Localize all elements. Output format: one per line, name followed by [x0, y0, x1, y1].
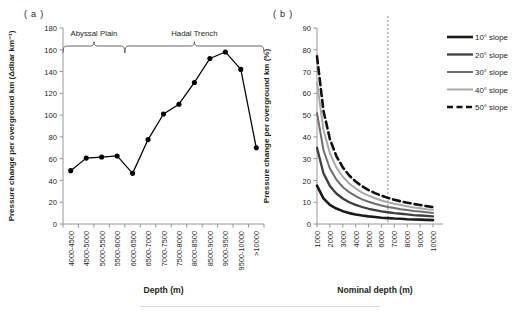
data-point-marker — [161, 111, 166, 116]
y-tick-label-b: 50 — [303, 111, 311, 120]
data-point-marker — [84, 156, 89, 161]
y-tick-label-a: 120 — [44, 89, 57, 98]
x-tick-label-a: 5000-5500 — [98, 231, 107, 266]
x-tick-label-b: 6000 — [377, 231, 386, 247]
data-point-marker — [115, 153, 120, 158]
data-point-marker — [99, 154, 104, 159]
data-point-marker — [68, 168, 73, 173]
x-axis-label-a: Depth (m) — [143, 285, 183, 295]
data-point-marker — [223, 49, 228, 54]
x-tick-label-a: 6500-7000 — [144, 231, 153, 266]
y-axis-label-a: Pressure change per overground km (Δdbar… — [7, 30, 16, 221]
data-point-marker — [207, 56, 212, 61]
x-tick-label-b: 10000 — [429, 231, 438, 252]
y-tick-label-a: 140 — [44, 68, 57, 77]
y-tick-label-a: 180 — [44, 24, 57, 33]
x-tick-label-a: 9000-9500 — [221, 231, 230, 266]
y-tick-label-b: 30 — [303, 155, 311, 164]
x-tick-label-a: 7000-7500 — [160, 231, 169, 266]
data-point-marker — [176, 102, 181, 107]
y-tick-label-b: 10 — [303, 198, 311, 207]
x-tick-label-b: 4000 — [352, 231, 361, 247]
x-tick-label-b: 3000 — [339, 231, 348, 247]
data-point-marker — [238, 67, 243, 72]
data-point-marker — [130, 171, 135, 176]
footer-divider — [140, 306, 380, 307]
y-tick-label-b: 80 — [303, 46, 311, 55]
legend-label: 10° slope — [475, 33, 509, 42]
y-tick-label-b: 90 — [303, 24, 311, 33]
x-tick-label-a: 8500-9000 — [206, 231, 215, 266]
annotation-brace — [63, 42, 125, 53]
y-tick-label-a: 40 — [49, 177, 57, 186]
panel-b: ( b ) 0102030405060708090100020003000400… — [255, 0, 527, 300]
legend-label: 20° slope — [475, 51, 509, 60]
data-point-marker — [145, 137, 150, 142]
legend-label: 30° slope — [475, 68, 509, 77]
series-line — [317, 56, 433, 207]
y-tick-label-b: 40 — [303, 133, 311, 142]
x-tick-label-b: 7000 — [390, 231, 399, 247]
x-tick-label-b: 2000 — [326, 231, 335, 247]
y-tick-label-a: 80 — [49, 133, 57, 142]
annotation-label: Hadal Trench — [171, 29, 217, 38]
x-tick-label-b: 1000 — [313, 231, 322, 247]
x-tick-label-a: 8000-8500 — [190, 231, 199, 266]
x-tick-label-a: 6000-6500 — [129, 231, 138, 266]
x-tick-label-b: 5000 — [365, 231, 374, 247]
y-tick-label-b: 60 — [303, 89, 311, 98]
x-tick-label-b: 8000 — [403, 231, 412, 247]
x-tick-label-a: 9500-10000 — [237, 231, 246, 270]
legend-label: 50° slope — [475, 103, 509, 112]
x-axis-label-b: Nominal depth (m) — [337, 285, 413, 295]
x-tick-label-a: 5500-6000 — [113, 231, 122, 266]
y-tick-label-a: 60 — [49, 155, 57, 164]
annotation-label: Abyssal Plain — [71, 29, 118, 38]
panel-a: ( a ) 0204060801001201401601804000-45004… — [0, 0, 272, 300]
y-tick-label-a: 0 — [53, 220, 57, 229]
y-tick-label-b: 20 — [303, 177, 311, 186]
y-tick-label-b: 0 — [307, 220, 311, 229]
panel-b-plot: 0102030405060708090100020003000400050006… — [255, 0, 527, 300]
y-tick-label-b: 70 — [303, 68, 311, 77]
x-tick-label-a: 4500-5000 — [82, 231, 91, 266]
y-tick-label-a: 160 — [44, 46, 57, 55]
y-axis-label-b: Pressure change per overground km (%) — [262, 49, 271, 204]
figure-container: ( a ) 0204060801001201401601804000-45004… — [0, 0, 527, 321]
x-tick-label-a: 4000-4500 — [67, 231, 76, 266]
x-tick-label-a: 7500-8000 — [175, 231, 184, 266]
x-tick-label-b: 9000 — [416, 231, 425, 247]
y-tick-label-a: 100 — [44, 111, 57, 120]
legend-label: 40° slope — [475, 86, 509, 95]
panel-a-plot: 0204060801001201401601804000-45004500-50… — [0, 0, 272, 300]
data-point-marker — [192, 80, 197, 85]
y-tick-label-a: 20 — [49, 198, 57, 207]
annotation-brace — [125, 42, 264, 53]
